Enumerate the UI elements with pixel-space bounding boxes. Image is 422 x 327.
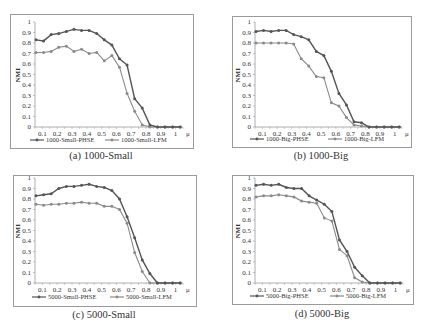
svg-text:5000-Big-PHSE: 5000-Big-PHSE: [266, 292, 309, 299]
svg-text:0.7: 0.7: [242, 206, 251, 214]
svg-text:0: 0: [248, 279, 252, 287]
svg-text:0.3: 0.3: [242, 248, 251, 256]
svg-text:μ: μ: [406, 286, 410, 294]
svg-text:1: 1: [248, 174, 252, 182]
svg-text:0.4: 0.4: [242, 237, 251, 245]
svg-text:0.6: 0.6: [242, 216, 251, 224]
line-chart-5000-big: 00.10.20.30.40.50.60.70.80.910.10.20.30.…: [0, 0, 422, 327]
svg-text:0.5: 0.5: [317, 286, 326, 294]
caption-d: (d) 5000-Big: [232, 308, 412, 319]
svg-text:1: 1: [394, 286, 398, 294]
svg-text:5000-Big-LFM: 5000-Big-LFM: [346, 292, 386, 299]
svg-text:0.9: 0.9: [242, 185, 251, 193]
svg-text:0.5: 0.5: [242, 227, 251, 235]
svg-text:NMI: NMI: [234, 224, 242, 239]
svg-text:0.8: 0.8: [242, 195, 251, 203]
svg-text:0.1: 0.1: [242, 269, 251, 277]
svg-text:0.2: 0.2: [242, 258, 251, 266]
svg-text:0.6: 0.6: [332, 286, 341, 294]
